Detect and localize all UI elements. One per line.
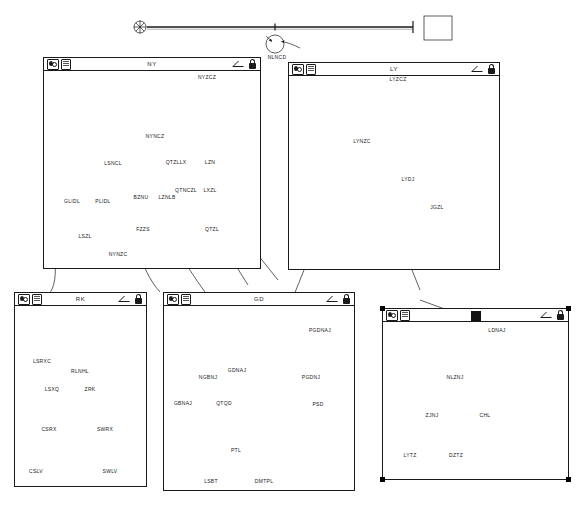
node-label: QTZLLX — [166, 159, 187, 165]
window-ny-titlebar[interactable]: NY — [44, 58, 260, 71]
collapse-triangle-icon[interactable] — [232, 61, 244, 67]
node-label: PSD — [312, 401, 323, 407]
node-label: GBNAJ — [174, 400, 192, 406]
node-label: ZJNJ — [426, 412, 439, 418]
node-label: LZN — [205, 159, 215, 165]
node-label: PGDNJ — [302, 374, 320, 380]
titlebar-right-icons[interactable] — [118, 294, 142, 304]
titlebar-right-icons[interactable] — [326, 294, 350, 304]
root-chain — [134, 16, 452, 53]
titlebar-left-icons[interactable] — [386, 310, 410, 321]
node-label: NYNCZ — [146, 133, 165, 139]
window-rk[interactable]: RK — [14, 292, 147, 487]
node-label: LYTZ — [403, 452, 416, 458]
node-label: GDNAJ — [228, 367, 246, 373]
collapse-triangle-icon[interactable] — [471, 66, 483, 72]
window-ly-title: LY — [289, 64, 499, 75]
node-label: FZZS — [136, 226, 150, 232]
node-label: PTL — [231, 447, 241, 453]
node-label: QTNCZL — [175, 187, 197, 193]
window-ly-titlebar[interactable]: LY — [289, 63, 499, 76]
node-label: BZNU — [134, 194, 149, 200]
node-label: NLZNJ — [446, 374, 463, 380]
collapse-triangle-icon[interactable] — [540, 312, 552, 318]
node-label: PLIDL — [95, 198, 110, 204]
node-label: CSRX — [41, 426, 56, 432]
selected-document-icon[interactable] — [471, 311, 481, 321]
node-label: LZNLB — [158, 194, 175, 200]
window-selected-titlebar[interactable] — [383, 309, 568, 322]
node-label: LSZL — [78, 233, 91, 239]
lock-icon[interactable] — [249, 59, 256, 69]
node-label: NLNCD — [268, 54, 287, 60]
selection-handle-br[interactable] — [566, 477, 571, 482]
node-label: SWLV — [103, 468, 118, 474]
titlebar-right-icons[interactable] — [540, 310, 564, 320]
document-icon[interactable] — [400, 310, 410, 321]
collapse-triangle-icon[interactable] — [118, 296, 130, 302]
selection-handle-bl[interactable] — [380, 477, 385, 482]
window-ny-title: NY — [44, 59, 260, 70]
lock-icon[interactable] — [343, 294, 350, 304]
node-label: DZTZ — [449, 452, 463, 458]
node-label: QTQD — [216, 400, 232, 406]
lock-icon[interactable] — [488, 64, 495, 74]
node-label: CHL — [480, 412, 491, 418]
node-label: LDNAJ — [488, 327, 505, 333]
node-label: LYNZC — [353, 138, 371, 144]
node-label: LSRXC — [33, 358, 51, 364]
node-label: SWRX — [97, 426, 113, 432]
node-label: GLIDL — [64, 198, 80, 204]
window-ly[interactable]: LY — [288, 62, 500, 270]
node-label: RLNHL — [71, 368, 89, 374]
window-gd-titlebar[interactable]: GD — [164, 293, 354, 306]
node-label: CSLV — [29, 468, 43, 474]
node-label: LXZL — [203, 187, 216, 193]
diagram-canvas[interactable]: NY LY RK — [0, 0, 586, 509]
node-label: NYNZC — [109, 251, 128, 257]
node-label: LYDJ — [401, 176, 414, 182]
node-label: ZRK — [85, 386, 96, 392]
node-label: LSBT — [204, 478, 218, 484]
node-label: LSXQ — [45, 386, 60, 392]
node-label: QTZL — [205, 226, 219, 232]
window-rk-titlebar[interactable]: RK — [15, 293, 146, 306]
collapse-triangle-icon[interactable] — [326, 296, 338, 302]
node-label: LSNCL — [104, 160, 122, 166]
node-label: LYZCZ — [390, 76, 407, 82]
titlebar-right-icons[interactable] — [471, 64, 495, 74]
lock-icon[interactable] — [557, 310, 564, 320]
lock-icon[interactable] — [135, 294, 142, 304]
window-ny[interactable]: NY — [43, 57, 261, 269]
titlebar-right-icons[interactable] — [232, 59, 256, 69]
node-label: NGBNJ — [199, 374, 217, 380]
selection-handle-tl[interactable] — [380, 306, 385, 311]
selection-handle-tr[interactable] — [566, 306, 571, 311]
node-label: PGDNAJ — [309, 327, 331, 333]
model-toggle-icon[interactable] — [386, 310, 398, 321]
window-gd[interactable]: GD — [163, 292, 355, 491]
node-label: DMTPL — [255, 478, 273, 484]
node-label: JGZL — [430, 204, 443, 210]
node-label: NYZCZ — [198, 74, 216, 80]
